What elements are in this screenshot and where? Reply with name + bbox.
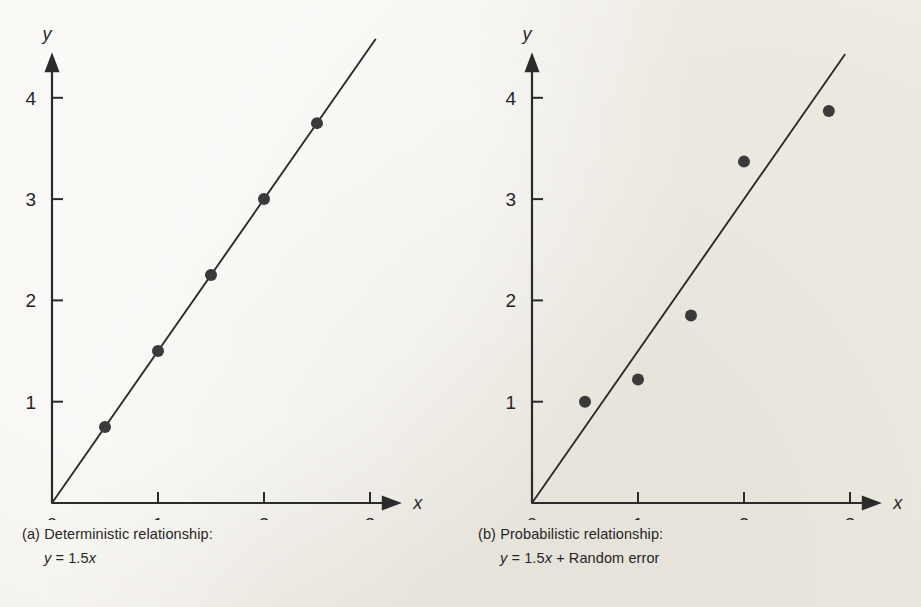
caption-probabilistic: (b) Probabilistic relationship: y = 1.5x… xyxy=(478,524,663,569)
y-tick-label: 3 xyxy=(25,189,36,210)
equation-variable: x xyxy=(89,550,96,566)
data-point-marker xyxy=(738,156,750,168)
y-tick-label: 4 xyxy=(505,88,516,109)
y-tick-label: 2 xyxy=(505,290,516,311)
x-tick-label: 0 xyxy=(47,514,58,520)
equation-relation: = 1.5 xyxy=(51,550,88,566)
equation-tail: + Random error xyxy=(552,550,659,566)
x-tick-label: 2 xyxy=(739,514,750,520)
x-axis-label: x xyxy=(892,493,903,513)
y-axis-label: y xyxy=(521,24,533,44)
figure-two-panel-scatter: yx12340123 (a) Deterministic relationshi… xyxy=(0,0,921,607)
panel-deterministic: yx12340123 (a) Deterministic relationshi… xyxy=(0,0,460,607)
x-tick-label: 0 xyxy=(527,514,538,520)
x-axis-label: x xyxy=(412,493,423,513)
data-point-marker xyxy=(632,373,644,385)
panel-probabilistic: yx12340123 (b) Probabilistic relationshi… xyxy=(460,0,921,607)
y-tick-label: 1 xyxy=(25,392,36,413)
x-tick-label: 3 xyxy=(845,514,856,520)
y-axis-label: y xyxy=(41,24,53,44)
y-tick-label: 1 xyxy=(505,392,516,413)
x-axis-arrowhead xyxy=(382,496,402,511)
data-point-marker xyxy=(823,105,835,117)
x-tick-label: 2 xyxy=(259,514,270,520)
y-tick-label: 4 xyxy=(25,88,36,109)
data-point-marker xyxy=(311,117,323,129)
data-point-marker xyxy=(99,421,111,433)
caption-equation: y = 1.5x xyxy=(22,548,213,569)
x-tick-label: 1 xyxy=(153,514,164,520)
data-point-marker xyxy=(205,269,217,281)
y-tick-label: 3 xyxy=(505,189,516,210)
x-tick-label: 1 xyxy=(633,514,644,520)
equation-relation: = 1.5 xyxy=(507,550,544,566)
data-point-marker xyxy=(685,310,697,322)
data-point-marker xyxy=(258,193,270,205)
y-axis-arrowhead xyxy=(45,52,60,72)
y-tick-label: 2 xyxy=(25,290,36,311)
equation-variable: x xyxy=(545,550,552,566)
y-axis-arrowhead xyxy=(525,52,540,72)
caption-equation: y = 1.5x + Random error xyxy=(478,548,663,569)
caption-line-1: (a) Deterministic relationship: xyxy=(22,526,213,542)
x-axis-arrowhead xyxy=(862,496,882,511)
model-line xyxy=(532,55,845,503)
caption-line-1: (b) Probabilistic relationship: xyxy=(478,526,663,542)
data-point-marker xyxy=(152,345,164,357)
caption-deterministic: (a) Deterministic relationship: y = 1.5x xyxy=(22,524,213,569)
x-tick-label: 3 xyxy=(365,514,376,520)
data-point-marker xyxy=(579,396,591,408)
plot-area-probabilistic: yx12340123 xyxy=(460,0,921,520)
plot-area-deterministic: yx12340123 xyxy=(0,0,460,520)
